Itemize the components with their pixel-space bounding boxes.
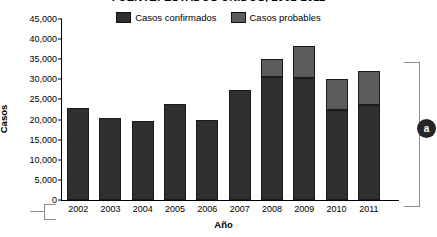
y-tick-label: 15,000 [29, 135, 57, 145]
x-tick-label: 2011 [353, 204, 385, 214]
y-tick-label: 45,000 [29, 14, 57, 24]
bar-segment-probables[interactable] [358, 71, 380, 105]
x-tick-label: 2006 [191, 204, 223, 214]
y-tick-label: 10,000 [29, 155, 57, 165]
plot-area: 05,00010,00015,00020,00025,00030,00035,0… [62, 19, 385, 200]
y-tick-label: 40,000 [29, 34, 57, 44]
x-tick-label: 2009 [288, 204, 320, 214]
bar-segment-probables[interactable] [261, 59, 283, 77]
bar-segment-confirmados[interactable] [196, 120, 218, 200]
bar-segment-confirmados[interactable] [358, 105, 380, 200]
y-tick-label: 20,000 [29, 115, 57, 125]
bar-segment-confirmados[interactable] [67, 108, 89, 201]
x-tick-label: 2003 [94, 204, 126, 214]
annotation-badge-a[interactable]: a [417, 119, 436, 138]
x-axis-title: Año [62, 219, 385, 230]
chart-container: FUENTE: ESTADOS UNIDOS, 2002-2011 Casos … [0, 0, 437, 237]
bar-segment-confirmados[interactable] [293, 78, 315, 200]
bar-segment-confirmados[interactable] [326, 110, 348, 200]
bar-segment-confirmados[interactable] [229, 90, 251, 200]
y-tick-label: 35,000 [29, 54, 57, 64]
left-annotation-bracket-tail [30, 211, 45, 212]
right-annotation-bracket [404, 62, 420, 207]
x-tick-label: 2004 [127, 204, 159, 214]
bar-segment-confirmados[interactable] [132, 121, 154, 200]
bar-segment-probables[interactable] [326, 79, 348, 110]
y-tick-label: 5,000 [34, 175, 57, 185]
x-tick-label: 2002 [62, 204, 94, 214]
y-tick-label: 30,000 [29, 74, 57, 84]
bar-segment-confirmados[interactable] [164, 104, 186, 200]
bar-segment-confirmados[interactable] [99, 118, 121, 200]
left-annotation-bracket [44, 204, 56, 220]
x-tick-label: 2005 [159, 204, 191, 214]
x-tick-label: 2010 [321, 204, 353, 214]
y-tick-label: 25,000 [29, 94, 57, 104]
y-axis-title: Casos [0, 104, 9, 133]
bar-series-group [62, 19, 385, 200]
x-tick-label: 2008 [256, 204, 288, 214]
chart-title: FUENTE: ESTADOS UNIDOS, 2002-2011 [0, 0, 437, 2]
x-tick-label: 2007 [224, 204, 256, 214]
bar-segment-probables[interactable] [293, 46, 315, 78]
bar-segment-confirmados[interactable] [261, 77, 283, 200]
